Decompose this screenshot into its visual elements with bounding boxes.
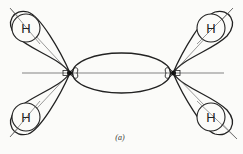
hydrogen-top-right: H [197,8,233,44]
figure-caption: (a) [115,133,125,142]
h-label: H [206,21,215,36]
orbital-diagram: H H H H (a) [0,0,243,154]
hydrogen-bottom-right: H [197,101,237,139]
h-label: H [21,110,30,125]
h-label: H [206,110,215,125]
hydrogen-bottom-left: H [10,101,40,137]
hydrogen-top-left: H [10,8,40,44]
h-label: H [21,21,30,36]
